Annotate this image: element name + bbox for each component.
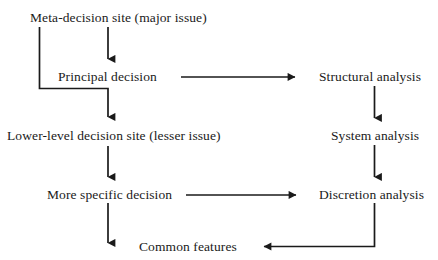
node-discretion-analysis: Discretion analysis bbox=[319, 187, 424, 202]
node-more-specific-decision: More specific decision bbox=[47, 187, 172, 202]
node-common-features: Common features bbox=[139, 239, 237, 254]
node-structural-analysis: Structural analysis bbox=[319, 69, 421, 84]
node-meta-decision-site: Meta-decision site (major issue) bbox=[30, 10, 207, 25]
decision-flow-diagram: Meta-decision site (major issue) Princip… bbox=[0, 0, 438, 260]
node-principal-decision: Principal decision bbox=[58, 69, 157, 84]
node-system-analysis: System analysis bbox=[331, 128, 419, 143]
edge-discretion-to-common-features bbox=[264, 203, 375, 247]
node-lower-level-decision-site: Lower-level decision site (lesser issue) bbox=[7, 128, 221, 143]
